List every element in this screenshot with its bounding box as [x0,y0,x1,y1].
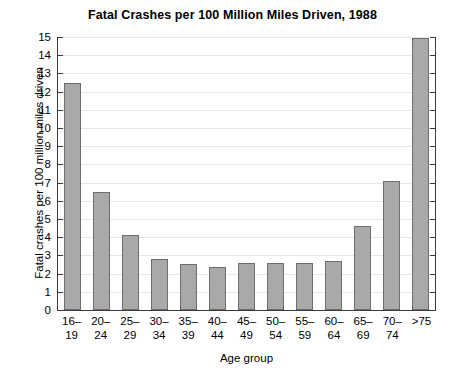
bar-slot [116,37,145,310]
x-axis-tick-label-line: 24 [86,329,115,343]
x-axis-tick-label-line: 64 [319,329,348,343]
y-axis-tick-label: 14 [11,50,51,61]
x-axis-tick-label: >75 [407,315,436,342]
bar-slot [261,37,290,310]
y-axis-tick-label: 10 [11,123,51,134]
bar[interactable] [180,264,197,310]
x-axis-tick-label: 70–74 [378,315,407,342]
bar[interactable] [238,263,255,310]
x-axis-tick-label-line: 16– [57,315,86,329]
x-axis-tick-label-line: 30– [144,315,173,329]
bar[interactable] [412,38,429,310]
x-axis-tick-label: 55–59 [290,315,319,342]
x-axis-tick-label-line: 69 [349,329,378,343]
x-axis-tick-label: 45–49 [232,315,261,342]
x-axis-tick-label: 60–64 [319,315,348,342]
bar-slot [377,37,406,310]
bar-slot [203,37,232,310]
bar-slot [145,37,174,310]
axis-tick-mark [430,310,435,311]
x-axis-tick-label-line: 39 [174,329,203,343]
y-axis-tick-label: 5 [11,214,51,225]
y-axis-tick-label: 9 [11,141,51,152]
y-axis-tick-label: 4 [11,232,51,243]
y-axis-tick-label: 12 [11,86,51,97]
bar[interactable] [325,261,342,310]
bar-slot [319,37,348,310]
chart-title: Fatal Crashes per 100 Million Miles Driv… [0,8,465,22]
x-axis-title: Age group [57,352,436,364]
bar-chart: Fatal Crashes per 100 Million Miles Driv… [0,0,465,383]
plot-area [57,37,436,311]
bar[interactable] [64,83,81,311]
x-axis-tick-label: 25–29 [115,315,144,342]
x-axis-tick-label: 40–44 [203,315,232,342]
x-axis-tick-label: 20–24 [86,315,115,342]
bar-slot [348,37,377,310]
x-axis-tick-label-line: 59 [290,329,319,343]
x-axis-tick-label-line: 20– [86,315,115,329]
bar-series [58,37,435,310]
bar[interactable] [296,263,313,310]
x-axis-tick-label: 16–19 [57,315,86,342]
x-axis-tick-label-line: 54 [261,329,290,343]
x-axis-tick-label-line: 74 [378,329,407,343]
x-axis-tick-label-line: 49 [232,329,261,343]
x-axis-tick-label: 65–69 [349,315,378,342]
x-axis-tick-labels: 16–1920–2425–2930–3435–3940–4445–4950–54… [57,315,436,342]
bar-slot [232,37,261,310]
y-axis-tick-label: 1 [11,286,51,297]
x-axis-tick-label-line: 60– [319,315,348,329]
x-axis-tick-label-line: 45– [232,315,261,329]
x-axis-tick-label: 30–34 [144,315,173,342]
bar[interactable] [354,226,371,310]
x-axis-tick-label-line: 65– [349,315,378,329]
y-axis-tick-label: 2 [11,268,51,279]
bar[interactable] [209,267,226,310]
y-axis-tick-label: 8 [11,159,51,170]
bar-slot [174,37,203,310]
bar-slot [290,37,319,310]
y-axis-tick-label: 13 [11,68,51,79]
y-axis-tick-label: 15 [11,32,51,43]
bar-slot [87,37,116,310]
y-axis-tick-label: 11 [11,104,51,115]
x-axis-tick-label-line: 40– [203,315,232,329]
bar-slot [58,37,87,310]
x-axis-tick-label-line: 70– [378,315,407,329]
bar[interactable] [93,192,110,310]
y-axis-tick-label: 0 [11,305,51,316]
bar[interactable] [122,235,139,310]
y-axis-tick-label: 3 [11,250,51,261]
axis-tick-mark [58,310,63,311]
x-axis-tick-label-line: 34 [144,329,173,343]
x-axis-tick-label-line: 50– [261,315,290,329]
x-axis-tick-label: 50–54 [261,315,290,342]
bar[interactable] [383,181,400,310]
x-axis-tick-label-line: 19 [57,329,86,343]
y-axis-tick-label: 7 [11,177,51,188]
bar-slot [406,37,435,310]
x-axis-tick-label-line: 55– [290,315,319,329]
x-axis-tick-label-line: 44 [203,329,232,343]
x-axis-tick-label-line: >75 [407,315,436,329]
x-axis-tick-label-line: 29 [115,329,144,343]
bar[interactable] [267,263,284,310]
x-axis-tick-label: 35–39 [174,315,203,342]
x-axis-tick-label-line: 25– [115,315,144,329]
y-axis-tick-label: 6 [11,195,51,206]
x-axis-tick-label-line: 35– [174,315,203,329]
bar[interactable] [151,259,168,310]
